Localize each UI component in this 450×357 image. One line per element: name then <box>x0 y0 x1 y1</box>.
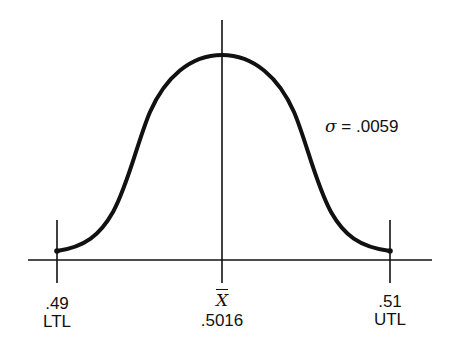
ltl-value: .49 <box>37 295 77 313</box>
sigma-symbol: σ <box>325 116 337 136</box>
ltl-label: .49 LTL <box>37 295 77 331</box>
utl-endpoint <box>387 248 393 254</box>
ltl-name: LTL <box>37 313 77 331</box>
utl-label: .51 UTL <box>370 293 410 329</box>
mean-value: .5016 <box>192 312 252 330</box>
ltl-endpoint <box>54 248 60 254</box>
bell-curve <box>57 55 390 251</box>
sigma-value: = .0059 <box>337 117 399 136</box>
utl-name: UTL <box>370 311 410 329</box>
mean-symbol: X <box>216 290 228 310</box>
mean-label: X .5016 <box>192 291 252 330</box>
utl-value: .51 <box>370 293 410 311</box>
sigma-annotation: σ = .0059 <box>325 116 399 137</box>
